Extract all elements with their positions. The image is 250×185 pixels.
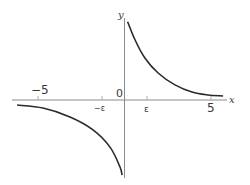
- tick-label-pos5: 5: [207, 101, 215, 115]
- tick-label-neg5: −5: [31, 83, 49, 97]
- chart-svg: x y 0 −5 −ε ε 5: [0, 0, 250, 185]
- upper-branch-curve: [128, 22, 224, 96]
- tick-label-epsilon: ε: [144, 104, 149, 114]
- origin-label: 0: [116, 87, 123, 100]
- chart: x y 0 −5 −ε ε 5: [0, 0, 250, 185]
- tick-label-neg-epsilon: −ε: [94, 104, 105, 113]
- x-axis-label: x: [229, 94, 235, 105]
- y-axis-label: y: [117, 9, 124, 20]
- lower-branch-curve: [17, 105, 122, 175]
